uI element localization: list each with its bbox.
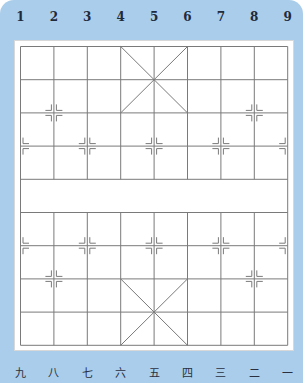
top-label-2: 2 (44, 10, 64, 24)
top-label-5: 5 (144, 10, 164, 24)
bottom-label-8: 八 (44, 364, 64, 380)
bottom-label-6: 六 (111, 364, 131, 380)
top-label-7: 7 (211, 10, 231, 24)
top-label-9: 9 (278, 10, 298, 24)
top-label-6: 6 (178, 10, 198, 24)
bottom-label-9: 九 (11, 364, 31, 380)
xiangqi-board-grid (0, 0, 303, 383)
top-label-3: 3 (77, 10, 97, 24)
top-label-1: 1 (11, 10, 31, 24)
bottom-label-5: 五 (144, 364, 164, 380)
top-label-4: 4 (111, 10, 131, 24)
bottom-label-1: 一 (278, 364, 298, 380)
top-label-8: 8 (244, 10, 264, 24)
bottom-label-3: 三 (211, 364, 231, 380)
bottom-label-2: 二 (244, 364, 264, 380)
bottom-label-7: 七 (77, 364, 97, 380)
bottom-label-4: 四 (178, 364, 198, 380)
